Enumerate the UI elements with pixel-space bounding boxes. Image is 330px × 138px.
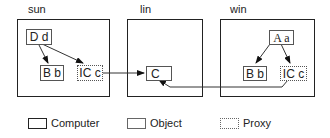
edge-win-aa-icc	[281, 44, 290, 63]
object-win-bb: B b	[243, 66, 267, 81]
legend-computer-swatch	[28, 118, 47, 129]
object-sun-bb: B b	[40, 65, 64, 81]
legend-computer-label: Computer	[51, 117, 99, 129]
edge-win-icc-lin-c	[159, 80, 288, 87]
proxy-sun-icc: IC c	[77, 65, 103, 81]
object-win-aa: A a	[269, 30, 294, 45]
legend-proxy-swatch	[220, 118, 239, 129]
legend-object: Object	[127, 117, 182, 129]
object-lin-c: C	[146, 66, 172, 81]
legend-proxy: Proxy	[220, 117, 271, 129]
legend-computer: Computer	[28, 117, 99, 129]
legend-object-swatch	[127, 118, 146, 129]
legend-object-label: Object	[150, 117, 182, 129]
object-sun-dd: D d	[26, 29, 52, 45]
legend-proxy-label: Proxy	[243, 117, 271, 129]
edge-win-aa-bb	[256, 44, 270, 63]
proxy-win-icc: IC c	[280, 66, 307, 81]
